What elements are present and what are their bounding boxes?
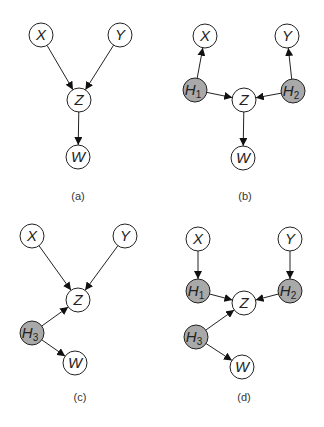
node-label: X: [26, 227, 38, 244]
panel-caption: (b): [238, 190, 251, 202]
node-label: Y: [115, 26, 126, 43]
node-label: W: [235, 358, 251, 375]
node-y: Y: [275, 24, 299, 48]
edge-h1-to-x: [197, 48, 203, 78]
edge-h3-to-z: [206, 310, 234, 330]
causal-graph-figure: XYZW(a)XYH1H2ZW(b)XYZH3W(c)XYH1H2ZH3W(d): [0, 0, 324, 427]
panel-d: XYH1H2ZH3W(d): [184, 227, 302, 403]
node-y: Y: [113, 224, 137, 248]
panel-caption: (d): [237, 391, 250, 403]
node-h1-hidden: H1: [183, 78, 207, 102]
node-z: Z: [232, 291, 256, 315]
node-label: Z: [72, 291, 83, 308]
node-h2-hidden: H2: [278, 279, 302, 303]
edge-h3-to-z: [42, 307, 68, 326]
node-w: W: [231, 146, 255, 170]
node-label: W: [71, 148, 87, 165]
panel-a: XYZW(a): [29, 23, 132, 202]
node-label: X: [192, 230, 204, 247]
edge-z-to-w: [243, 112, 244, 146]
edge-h2-to-z: [256, 93, 281, 98]
edge-y-to-z: [85, 246, 118, 291]
edge-h2-to-z: [256, 294, 279, 300]
node-label: Z: [238, 294, 249, 311]
node-label: Y: [282, 27, 293, 44]
node-label: W: [236, 149, 252, 166]
node-label: Y: [285, 230, 296, 247]
edge-y-to-z: [85, 45, 113, 90]
panel-b: XYH1H2ZW(b): [183, 24, 305, 202]
node-label: W: [68, 354, 84, 371]
node-h3-hidden: H3: [20, 321, 44, 345]
node-label: Z: [238, 91, 249, 108]
node-w: W: [230, 355, 254, 379]
node-z: Z: [67, 88, 91, 112]
node-y: Y: [108, 23, 132, 47]
node-w: W: [66, 145, 90, 169]
edge-h3-to-w: [206, 344, 232, 361]
node-x: X: [186, 227, 210, 251]
node-label: Z: [73, 91, 84, 108]
edge-z-to-w: [78, 112, 79, 145]
node-z: Z: [232, 88, 256, 112]
edge-x-to-z: [39, 246, 71, 291]
node-z: Z: [66, 288, 90, 312]
panel-caption: (a): [71, 190, 84, 202]
node-y: Y: [278, 227, 302, 251]
node-label: Y: [120, 227, 131, 244]
panel-c: XYZH3W(c): [20, 224, 137, 403]
node-h2-hidden: H2: [281, 79, 305, 103]
node-h3-hidden: H3: [184, 325, 208, 349]
node-label: X: [199, 27, 211, 44]
edge-h1-to-z: [210, 294, 233, 300]
node-label: X: [35, 26, 47, 43]
node-x: X: [193, 24, 217, 48]
edge-h3-to-w: [42, 340, 65, 356]
node-x: X: [20, 224, 44, 248]
panel-caption: (c): [74, 391, 87, 403]
node-w: W: [63, 351, 87, 375]
edge-h1-to-z: [207, 92, 232, 97]
edge-h2-to-y: [288, 48, 291, 79]
node-x: X: [29, 23, 53, 47]
node-h1-hidden: H1: [186, 279, 210, 303]
edge-x-to-z: [47, 45, 73, 89]
